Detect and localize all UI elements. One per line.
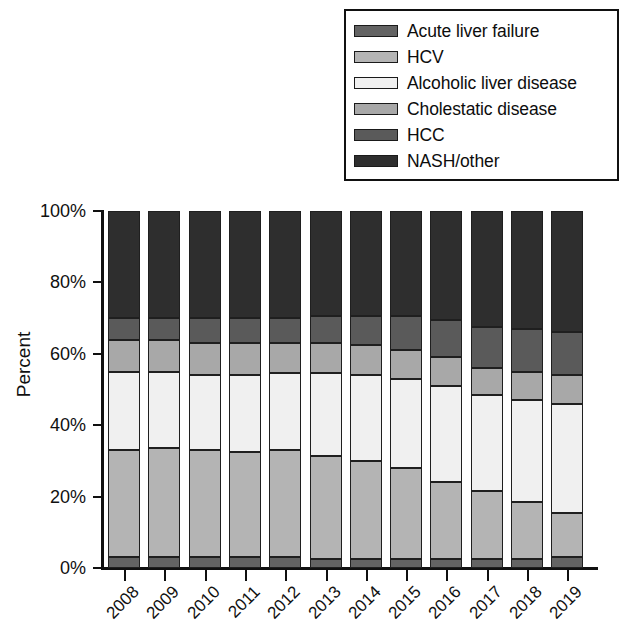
bar-segment (229, 318, 261, 343)
y-axis-tick (93, 281, 102, 283)
y-axis-tick (93, 353, 102, 355)
bar-segment (430, 482, 462, 559)
legend-item: NASH/other (354, 148, 609, 174)
bar-segment (269, 211, 301, 318)
x-axis-tick (406, 570, 408, 581)
y-axis-tick-label: 40% (28, 416, 86, 434)
x-axis-tick (285, 570, 287, 581)
bar-segment (108, 557, 140, 568)
x-axis-tick (124, 570, 126, 581)
y-axis-tick-label: 60% (28, 345, 86, 363)
bar-segment (189, 343, 221, 375)
bar-segment (310, 456, 342, 560)
y-axis-line (101, 210, 104, 570)
bar-segment (269, 450, 301, 557)
bar-segment (511, 372, 543, 401)
bar-segment (229, 343, 261, 375)
bar-segment (511, 211, 543, 329)
bar-segment (148, 557, 180, 568)
bar-segment (471, 395, 503, 491)
bar-segment (108, 340, 140, 372)
legend-item: HCC (354, 122, 609, 148)
bar-segment (390, 559, 422, 568)
bar-segment (310, 343, 342, 373)
plot-area (108, 211, 592, 568)
x-axis-tick (164, 570, 166, 581)
stacked-bar-chart-figure: Acute liver failure HCV Alcoholic liver … (0, 0, 630, 626)
bar-segment (189, 557, 221, 568)
bar-segment (471, 368, 503, 395)
y-axis-tick (93, 210, 102, 212)
bar-segment (390, 350, 422, 379)
legend-item: Alcoholic liver disease (354, 70, 609, 96)
bar-segment (471, 327, 503, 368)
bar-segment (310, 373, 342, 455)
legend-item: Acute liver failure (354, 18, 609, 44)
bar-segment (189, 450, 221, 557)
bar-segment (551, 211, 583, 332)
bar-2009 (148, 211, 180, 568)
bar-segment (108, 372, 140, 451)
legend-swatch-nash-other (354, 155, 398, 167)
x-axis-tick-label: 2019 (537, 583, 586, 626)
legend-label-cholestatic-disease: Cholestatic disease (407, 100, 557, 118)
bar-segment (430, 320, 462, 357)
bar-segment (350, 375, 382, 461)
x-axis-tick (205, 570, 207, 581)
bar-segment (551, 404, 583, 513)
bar-segment (108, 211, 140, 318)
x-axis-tick (366, 570, 368, 581)
bar-segment (350, 345, 382, 375)
legend-swatch-hcv (354, 51, 398, 63)
bar-segment (350, 559, 382, 568)
bar-segment (511, 502, 543, 559)
y-axis-tick-label: 20% (28, 488, 86, 506)
bar-2010 (189, 211, 221, 568)
bar-segment (269, 373, 301, 450)
y-axis-tick-label: 0% (28, 559, 86, 577)
y-axis-tick-labels: 0%20%40%60%80%100% (20, 0, 86, 626)
bar-2011 (229, 211, 261, 568)
bar-segment (471, 211, 503, 327)
x-axis-tick (527, 570, 529, 581)
bar-segment (430, 211, 462, 320)
bar-segment (390, 468, 422, 559)
legend-label-alcoholic-liver-disease: Alcoholic liver disease (407, 74, 577, 92)
x-axis-tick (245, 570, 247, 581)
bar-segment (350, 461, 382, 559)
bar-segment (390, 379, 422, 468)
chart-legend: Acute liver failure HCV Alcoholic liver … (344, 9, 619, 181)
bar-2016 (430, 211, 462, 568)
legend-swatch-alcoholic-liver-disease (354, 77, 398, 89)
bar-segment (310, 559, 342, 568)
bar-segment (189, 318, 221, 343)
bar-2014 (350, 211, 382, 568)
legend-item: Cholestatic disease (354, 96, 609, 122)
bar-segment (551, 557, 583, 568)
bar-2019 (551, 211, 583, 568)
bar-segment (390, 316, 422, 350)
bar-segment (148, 372, 180, 449)
bar-2018 (511, 211, 543, 568)
bar-segment (229, 375, 261, 452)
bar-2013 (310, 211, 342, 568)
bar-segment (269, 557, 301, 568)
bar-segment (189, 375, 221, 450)
legend-label-nash-other: NASH/other (407, 152, 499, 170)
bar-segment (471, 559, 503, 568)
bar-segment (229, 557, 261, 568)
x-axis-tick (446, 570, 448, 581)
legend-label-acute-liver-failure: Acute liver failure (407, 22, 539, 40)
bar-2015 (390, 211, 422, 568)
y-axis-tick-label: 100% (28, 202, 86, 220)
bar-segment (430, 386, 462, 482)
bar-segment (511, 559, 543, 568)
bar-segment (229, 452, 261, 557)
bar-segment (511, 400, 543, 502)
legend-swatch-cholestatic-disease (354, 103, 398, 115)
bar-segment (551, 513, 583, 558)
bar-segment (269, 343, 301, 373)
bar-segment (350, 211, 382, 316)
legend-label-hcc: HCC (407, 126, 445, 144)
bar-segment (108, 450, 140, 557)
